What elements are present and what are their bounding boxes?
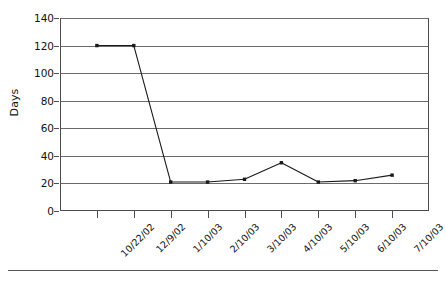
x-axis-tick-mark xyxy=(97,211,98,218)
x-axis-tick-label: 6/10/03 xyxy=(375,221,409,255)
x-axis-tick-label: 3/10/03 xyxy=(264,221,298,255)
x-axis-tick-label: 1/10/03 xyxy=(190,221,224,255)
data-point xyxy=(317,180,320,183)
y-axis-tick-mark xyxy=(54,18,59,19)
y-axis-tick-label: 140 xyxy=(24,13,54,23)
x-axis-tick-mark xyxy=(355,211,356,218)
x-axis-tick-mark xyxy=(245,211,246,218)
y-axis-tick-mark xyxy=(54,101,59,102)
y-axis-title: Days xyxy=(8,73,21,133)
x-axis-tick-label: 4/10/03 xyxy=(301,221,335,255)
series-markers xyxy=(95,44,394,184)
x-axis-tick-mark xyxy=(392,211,393,218)
x-axis-tick-label: 12/9/02 xyxy=(154,221,188,255)
y-axis-tick-label: 120 xyxy=(24,41,54,51)
x-axis-tick-label: 2/10/03 xyxy=(227,221,261,255)
x-axis-tick-label: 10/22/02 xyxy=(118,221,156,259)
series-line xyxy=(97,46,392,182)
chart-figure: Days 020406080100120140 10/22/0212/9/021… xyxy=(0,0,446,288)
x-axis-tick-mark xyxy=(281,211,282,218)
x-axis-tick-marks xyxy=(60,211,429,220)
y-axis-tick-mark xyxy=(54,73,59,74)
data-point xyxy=(354,179,357,182)
y-axis-tick-mark xyxy=(54,128,59,129)
x-axis-tick-mark xyxy=(318,211,319,218)
x-axis-tick-label: 7/10/03 xyxy=(412,221,446,255)
y-axis-tick-label: 20 xyxy=(24,178,54,188)
data-point xyxy=(132,44,135,47)
x-axis-tick-labels: 10/22/0212/9/021/10/032/10/033/10/034/10… xyxy=(60,221,429,267)
x-axis-tick-mark xyxy=(208,211,209,218)
y-axis-tick-label: 80 xyxy=(24,96,54,106)
data-point xyxy=(280,161,283,164)
data-point xyxy=(95,44,98,47)
y-axis-tick-label: 100 xyxy=(24,68,54,78)
data-point xyxy=(390,173,393,176)
y-axis-tick-mark xyxy=(54,46,59,47)
y-axis-tick-labels: 020406080100120140 xyxy=(22,0,54,288)
y-axis-tick-label: 0 xyxy=(24,206,54,216)
y-axis-tick-mark xyxy=(54,183,59,184)
data-point xyxy=(206,180,209,183)
x-axis-tick-mark xyxy=(134,211,135,218)
data-point xyxy=(243,178,246,181)
y-axis-tick-mark xyxy=(54,156,59,157)
x-axis-tick-mark xyxy=(171,211,172,218)
data-point xyxy=(169,180,172,183)
data-series-layer xyxy=(60,18,429,211)
y-axis-tick-mark xyxy=(54,211,59,212)
y-axis-tick-label: 60 xyxy=(24,123,54,133)
x-axis-tick-label: 5/10/03 xyxy=(338,221,372,255)
footer-divider xyxy=(8,270,438,271)
y-axis-tick-label: 40 xyxy=(24,151,54,161)
